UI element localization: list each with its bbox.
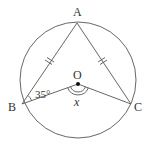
angle-label-35: 35° — [35, 88, 50, 100]
circle-diagram: A B C O 35° x — [0, 0, 147, 153]
label-c: C — [134, 100, 142, 114]
angle-arc-b — [28, 96, 32, 101]
label-b: B — [8, 100, 16, 114]
label-a: A — [73, 5, 82, 19]
label-o: O — [73, 68, 82, 82]
center-point-o — [76, 82, 80, 86]
angle-label-x: x — [73, 95, 80, 109]
segment-ac — [77, 23, 131, 104]
angle-arc-o-outer — [68, 88, 89, 95]
segment-oc — [78, 84, 131, 104]
angle-arc-o-inner — [71, 87, 86, 92]
